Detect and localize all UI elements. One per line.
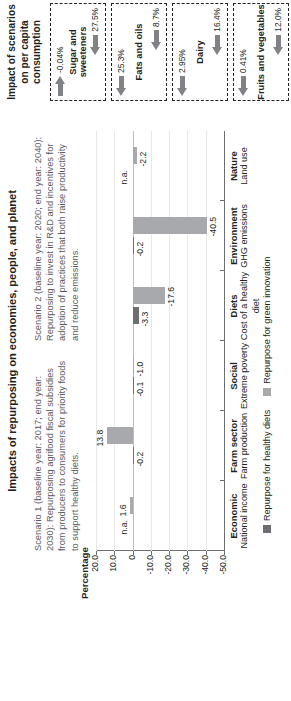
panel-food-group-name: Fats and oils bbox=[134, 4, 144, 100]
bar bbox=[133, 148, 137, 165]
category-label: EnvironmentGHG emissions bbox=[228, 201, 251, 271]
panel-value-label: -0.04% bbox=[55, 46, 65, 73]
legend-item-green-innovation: Repurpose for green innovation bbox=[262, 256, 272, 395]
bar-value-label: -3.3 bbox=[140, 312, 150, 327]
panel-value-label: 27.5% bbox=[90, 8, 100, 32]
zero-line bbox=[133, 131, 134, 551]
category-separator bbox=[220, 410, 225, 411]
panel-value-label: 2.95% bbox=[177, 49, 187, 73]
figure-root: Impacts of repurposing on economies, peo… bbox=[0, 0, 291, 701]
panel-scenario1-value: 25.3% bbox=[116, 49, 127, 96]
category-group-label: Social bbox=[228, 341, 239, 411]
arrow-left-icon bbox=[90, 35, 101, 55]
legend-swatch-icon bbox=[263, 525, 271, 533]
panel-food-group-box: Dairy2.95%16.4% bbox=[172, 3, 228, 101]
category-sub-label: Land use bbox=[239, 147, 249, 184]
legend-item-healthy-diets: Repurpose for healthy diets bbox=[262, 410, 272, 533]
category-group-label: Diets bbox=[228, 271, 239, 341]
bar-value-label: -0.1 bbox=[135, 382, 145, 397]
category-sub-label: Farm production bbox=[239, 413, 249, 479]
y-axis-tick-label: -30.0 bbox=[181, 555, 191, 595]
page-title: Impacts of repurposing on economies, peo… bbox=[6, 131, 18, 551]
category-label: SocialExtreme poverty bbox=[228, 341, 251, 411]
category-label: Farm sectorFarm production bbox=[228, 411, 251, 481]
chart-legend: Repurpose for healthy diets Repurpose fo… bbox=[262, 256, 272, 533]
bar-value-label: -0.2 bbox=[135, 242, 145, 257]
bar bbox=[130, 498, 133, 515]
chart-plot-area: 20.010.00-10.0-20.0-30.0-40.0-50.0Percen… bbox=[96, 131, 224, 551]
category-sub-label: Extreme poverty bbox=[239, 343, 249, 409]
bar-value-label: -40.5 bbox=[208, 217, 218, 237]
panel-scenario1-value: -0.04% bbox=[55, 46, 66, 96]
bar-value-label: -17.6 bbox=[166, 287, 176, 307]
bar-value-label: -2.2 bbox=[138, 152, 148, 167]
category-separator bbox=[220, 480, 225, 481]
legend-label: Repurpose for healthy diets bbox=[262, 410, 272, 521]
bar bbox=[107, 428, 132, 445]
bar-value-label: 13.8 bbox=[95, 430, 105, 447]
panel-scenario2-value: 8.7% bbox=[151, 8, 162, 50]
panel-value-label: 25.3% bbox=[116, 49, 126, 73]
bar-value-label: n.a. bbox=[119, 170, 129, 184]
arrow-left-icon bbox=[212, 35, 223, 55]
legend-swatch-icon bbox=[263, 388, 271, 396]
bar-value-label: -0.2 bbox=[135, 452, 145, 467]
panel-scenario2-value: 27.5% bbox=[90, 8, 101, 55]
bar-value-label: n.a. bbox=[119, 520, 129, 534]
panel-value-label: 16.4% bbox=[212, 8, 222, 32]
y-axis-tick-label: 20.0 bbox=[90, 555, 100, 595]
panel-food-group-box: Fruits and vegetables0.41%12.0% bbox=[233, 3, 289, 101]
panel-scenario2-value: 12.0% bbox=[273, 8, 284, 55]
panel-value-label: 0.41% bbox=[238, 49, 248, 73]
panel-scenario2-value: 16.4% bbox=[212, 8, 223, 55]
gridline bbox=[114, 131, 115, 551]
arrow-left-icon bbox=[238, 76, 249, 96]
scenario-1-note: Scenario 1 (baseline year: 2017; end yea… bbox=[32, 355, 81, 551]
panel-value-label: 12.0% bbox=[273, 8, 283, 32]
gridline bbox=[187, 131, 188, 551]
category-group-label: Nature bbox=[228, 131, 239, 201]
y-axis-title: Percentage bbox=[79, 547, 90, 599]
gridline bbox=[151, 131, 152, 551]
panel-box-list: Sugar and sweeteners-0.04%27.5%Fats and … bbox=[50, 3, 289, 101]
category-separator bbox=[220, 340, 225, 341]
bar bbox=[133, 378, 135, 395]
category-group-label: Environment bbox=[228, 201, 239, 271]
gridline bbox=[96, 131, 97, 551]
category-separator bbox=[220, 270, 225, 271]
scenario-2-note: Scenario 2 (baseline year: 2020; end yea… bbox=[32, 131, 81, 341]
bar-value-label: 1.6 bbox=[118, 505, 128, 517]
arrow-left-icon bbox=[151, 30, 162, 50]
category-group-label: Economic bbox=[228, 481, 239, 551]
bar bbox=[133, 288, 165, 305]
category-sub-label: National income bbox=[239, 483, 249, 548]
panel-scenario1-value: 0.41% bbox=[238, 49, 249, 96]
category-label: EconomicNational income bbox=[228, 481, 251, 551]
panel-food-group-name: Fruits and vegetables bbox=[256, 4, 266, 100]
y-axis-tick-label: -20.0 bbox=[163, 555, 173, 595]
arrow-left-icon bbox=[116, 76, 127, 96]
y-axis-tick-label: -40.0 bbox=[200, 555, 210, 595]
category-label: DietsCost of a healthy diet bbox=[228, 271, 262, 341]
bar bbox=[133, 358, 135, 375]
arrow-left-icon bbox=[273, 35, 284, 55]
panel-food-group-name: Dairy bbox=[195, 4, 205, 100]
panel-title: Impact of scenarios on per capita consum… bbox=[6, 3, 44, 101]
arrow-right-icon bbox=[55, 76, 66, 96]
legend-label: Repurpose for green innovation bbox=[262, 256, 272, 383]
y-axis-tick-label: -50.0 bbox=[218, 555, 228, 595]
panel-food-group-box: Fats and oils25.3%8.7% bbox=[111, 3, 167, 101]
category-group-label: Farm sector bbox=[228, 411, 239, 481]
gridline bbox=[206, 131, 207, 551]
y-axis-tick-label: 10.0 bbox=[108, 555, 118, 595]
panel-scenario1-value: 2.95% bbox=[177, 49, 188, 96]
y-axis-tick-label: -10.0 bbox=[145, 555, 155, 595]
y-axis-tick-label: 0 bbox=[127, 555, 137, 595]
panel-food-group-name: Sugar and sweeteners bbox=[68, 4, 88, 100]
bar bbox=[133, 238, 135, 255]
panel-food-group-box: Sugar and sweeteners-0.04%27.5% bbox=[50, 3, 106, 101]
arrow-left-icon bbox=[177, 76, 188, 96]
bar bbox=[133, 308, 139, 325]
bar bbox=[133, 448, 135, 465]
category-separator bbox=[220, 200, 225, 201]
